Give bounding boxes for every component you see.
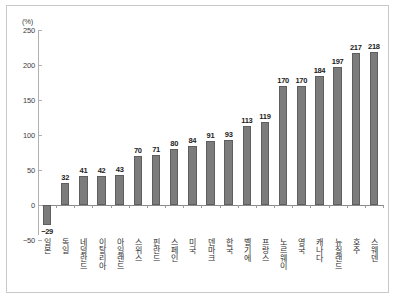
y-tick-mark [38, 170, 42, 171]
y-tick-label: 250 [23, 26, 35, 35]
bar-value-label: 80 [165, 139, 183, 148]
x-category-label: 일본 [43, 238, 51, 254]
bar-value-label: 91 [201, 131, 219, 140]
bar-value-label: 70 [129, 146, 147, 155]
bar[interactable] [279, 86, 288, 205]
bar[interactable] [97, 176, 106, 205]
x-category-label: 캐나다 [315, 238, 323, 262]
x-category-label: 스페인 [170, 238, 178, 262]
y-tick-label: −50 [23, 236, 35, 245]
x-category-label: 핀란드 [152, 238, 160, 262]
x-tick-mark [347, 205, 348, 208]
x-tick-mark [201, 205, 202, 208]
bar-value-label: 218 [365, 42, 383, 51]
x-tick-mark [238, 205, 239, 208]
x-category-label: 뉴질랜드 [333, 238, 341, 270]
bar[interactable] [297, 86, 306, 205]
x-tick-mark [329, 205, 330, 208]
x-tick-mark [74, 205, 75, 208]
chart-figure: (%) 250200150100500−50 −2932414243707180… [0, 0, 395, 299]
y-tick-mark [38, 135, 42, 136]
x-tick-mark [256, 205, 257, 208]
bar-value-label: −29 [38, 227, 56, 236]
bar-value-label: 93 [220, 130, 238, 139]
y-tick-label: 150 [23, 96, 35, 105]
bar-value-label: 71 [147, 145, 165, 154]
bar-value-label: 43 [111, 165, 129, 174]
bar-value-label: 119 [256, 112, 274, 121]
x-category-label: 독일 [61, 238, 69, 254]
bar-value-label: 113 [238, 116, 256, 125]
bar[interactable] [333, 67, 342, 205]
bar[interactable] [43, 205, 52, 225]
bar[interactable] [134, 156, 143, 205]
bar[interactable] [79, 176, 88, 205]
x-tick-mark [310, 205, 311, 208]
x-tick-mark [56, 205, 57, 208]
bar[interactable] [370, 52, 379, 205]
y-tick-mark [38, 240, 42, 241]
x-category-label: 네덜란드 [79, 238, 87, 270]
y-tick-mark [38, 30, 42, 31]
x-tick-mark [165, 205, 166, 208]
x-category-label: 영국 [297, 238, 305, 254]
bar[interactable] [224, 140, 233, 205]
bar[interactable] [188, 146, 197, 205]
y-tick-mark [38, 100, 42, 101]
bar[interactable] [243, 126, 252, 205]
x-tick-mark [111, 205, 112, 208]
x-category-label: 한국 [224, 238, 232, 254]
x-tick-mark [92, 205, 93, 208]
x-category-label: 스위스 [133, 238, 141, 262]
x-tick-mark [365, 205, 366, 208]
bar-value-label: 84 [183, 136, 201, 145]
x-category-label: 호주 [351, 238, 359, 254]
x-tick-mark [129, 205, 130, 208]
bar-value-label: 32 [56, 173, 74, 182]
bar[interactable] [152, 155, 161, 205]
bar-value-label: 217 [347, 43, 365, 52]
x-category-label: 이탈리아 [97, 238, 105, 270]
y-axis-tick-labels: 250200150100500−50 [0, 0, 35, 299]
y-tick-mark [38, 65, 42, 66]
bar[interactable] [315, 76, 324, 205]
bar[interactable] [261, 122, 270, 205]
bar-value-label: 41 [74, 166, 92, 175]
y-tick-label: 0 [31, 201, 35, 210]
x-tick-mark [292, 205, 293, 208]
bar[interactable] [115, 175, 124, 205]
x-category-label: 프랑스 [260, 238, 268, 262]
x-category-label: 스웨덴 [369, 238, 377, 262]
y-tick-label: 50 [27, 166, 35, 175]
bar-value-label: 197 [329, 57, 347, 66]
bar-value-label: 42 [92, 166, 110, 175]
x-tick-mark [220, 205, 221, 208]
y-tick-mark [38, 205, 42, 206]
bar[interactable] [206, 141, 215, 205]
x-tick-mark [383, 205, 384, 208]
bar-value-label: 170 [274, 76, 292, 85]
x-category-label: 벨기에 [242, 238, 250, 262]
bar[interactable] [170, 149, 179, 205]
x-tick-mark [183, 205, 184, 208]
x-tick-mark [147, 205, 148, 208]
x-category-label: 아일랜드 [115, 238, 123, 270]
bar[interactable] [352, 53, 361, 205]
y-tick-label: 200 [23, 61, 35, 70]
x-axis-category-labels: 일본독일네덜란드이탈리아아일랜드스위스핀란드스페인미국덴마크한국벨기에프랑스노르… [38, 238, 383, 293]
x-category-label: 미국 [188, 238, 196, 254]
bars-layer: −293241424370718084919311311917017018419… [38, 30, 383, 266]
x-category-label: 노르웨이 [279, 238, 287, 270]
x-category-label: 덴마크 [206, 238, 214, 262]
bar-value-label: 184 [310, 66, 328, 75]
y-tick-label: 100 [23, 131, 35, 140]
x-tick-mark [274, 205, 275, 208]
bar[interactable] [61, 183, 70, 205]
bar-value-label: 170 [292, 76, 310, 85]
